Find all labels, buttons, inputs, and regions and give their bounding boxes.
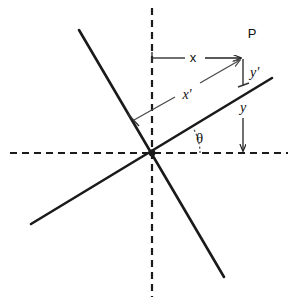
rotated-coordinate-diagram: θ x x' y' y P <box>0 0 295 303</box>
x-prime-label: x' <box>181 87 192 102</box>
diagram-canvas: θ x x' y' y P <box>0 0 295 303</box>
point-p-label: P <box>248 26 257 41</box>
y-prime-label: y' <box>248 65 260 80</box>
x-prime-measure-line-upper <box>200 60 240 83</box>
theta-label: θ <box>196 130 203 146</box>
y-label: y <box>238 100 247 115</box>
origin-point <box>149 150 156 157</box>
x-label: x <box>190 50 197 65</box>
x-prime-measure-line-lower <box>134 97 175 120</box>
